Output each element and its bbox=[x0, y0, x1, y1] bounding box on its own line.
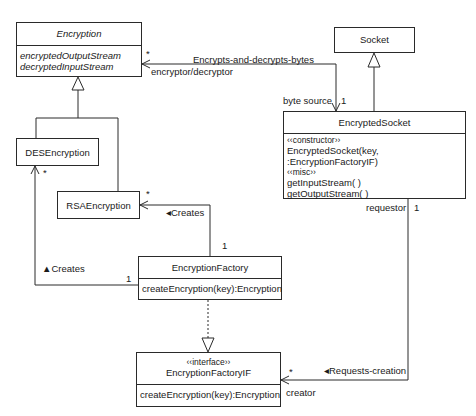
multiplicity-factory-rsa: 1 bbox=[222, 240, 227, 251]
attribute: decryptedInputStream bbox=[20, 61, 138, 72]
class-name: EncryptionFactoryIF bbox=[137, 367, 280, 384]
attributes-section: encryptedOutputStream decryptedInputStre… bbox=[17, 45, 141, 74]
multiplicity-rsa: * bbox=[146, 188, 150, 199]
association-requests-creation bbox=[281, 198, 408, 384]
association-name-creates-rsa: ◂Creates bbox=[166, 207, 204, 218]
class-name: RSAEncryption bbox=[58, 192, 139, 212]
role-byte-source: byte source bbox=[283, 95, 332, 106]
class-name: EncryptedSocket bbox=[284, 112, 465, 133]
operations-section: createEncryption(key):Encryption bbox=[139, 278, 281, 298]
operation: getInputStream( ) bbox=[287, 177, 462, 188]
stereotype-interface: ‹‹interface›› bbox=[137, 353, 280, 367]
class-encryption-factory-if[interactable]: ‹‹interface›› EncryptionFactoryIF create… bbox=[136, 352, 281, 407]
class-rsa-encryption[interactable]: RSAEncryption bbox=[57, 191, 140, 219]
class-encryption[interactable]: Encryption encryptedOutputStream decrypt… bbox=[16, 22, 142, 77]
multiplicity-requestor: 1 bbox=[414, 202, 419, 213]
operations-section: createEncryption(key):Encryption bbox=[137, 384, 280, 404]
multiplicity-encryption: * bbox=[146, 48, 150, 59]
class-encryption-factory[interactable]: EncryptionFactory createEncryption(key):… bbox=[138, 256, 282, 300]
class-name: DESEncryption bbox=[17, 139, 98, 159]
realization-factory-interface bbox=[202, 300, 214, 352]
operation: createEncryption(key):Encryption bbox=[142, 283, 278, 294]
class-name: Socket bbox=[335, 28, 414, 46]
association-name-creates-des: ▲Creates bbox=[42, 263, 85, 274]
operation: EncryptedSocket(key, :EncryptionFactoryI… bbox=[287, 145, 462, 167]
stereotype-misc: ‹‹misc›› bbox=[287, 167, 462, 177]
members-section: ‹‹constructor›› EncryptedSocket(key, :En… bbox=[284, 133, 465, 201]
role-requestor: requestor bbox=[366, 202, 406, 213]
operation: createEncryption(key):Encryption bbox=[140, 389, 277, 400]
class-name: EncryptionFactory bbox=[139, 257, 281, 278]
association-name-requests-creation: ◂Requests-creation bbox=[324, 365, 406, 376]
multiplicity-factory-des: 1 bbox=[126, 273, 131, 284]
multiplicity-des: * bbox=[43, 167, 47, 178]
role-creator: creator bbox=[286, 387, 316, 398]
operation: getOutputStream( ) bbox=[287, 188, 462, 199]
stereotype-constructor: ‹‹constructor›› bbox=[287, 135, 462, 145]
class-socket[interactable]: Socket bbox=[334, 27, 415, 53]
generalization-socket bbox=[368, 53, 380, 111]
generalization-encryption bbox=[36, 77, 118, 191]
multiplicity-creator: * bbox=[289, 366, 293, 377]
role-encryptor-decryptor: encryptor/decryptor bbox=[151, 66, 233, 77]
class-des-encryption[interactable]: DESEncryption bbox=[16, 138, 99, 166]
class-name: Encryption bbox=[17, 23, 141, 45]
attribute: encryptedOutputStream bbox=[20, 50, 138, 61]
uml-class-diagram: Encryption encryptedOutputStream decrypt… bbox=[0, 0, 476, 416]
association-name-encrypts: Encrypts-and-decrypts-bytes bbox=[193, 54, 314, 65]
multiplicity-socket: 1 bbox=[341, 95, 346, 106]
class-encrypted-socket[interactable]: EncryptedSocket ‹‹constructor›› Encrypte… bbox=[283, 111, 466, 199]
